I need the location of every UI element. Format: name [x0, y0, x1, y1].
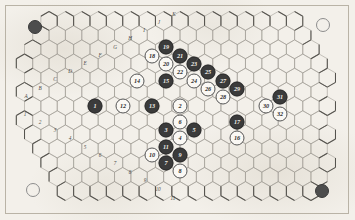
- hex-cell[interactable]: [245, 167, 261, 186]
- hex-cell[interactable]: [303, 68, 319, 87]
- game-piece-26[interactable]: 26: [201, 82, 216, 97]
- hex-cell[interactable]: [90, 125, 106, 144]
- hex-cell[interactable]: [295, 139, 311, 158]
- hex-cell[interactable]: [262, 26, 278, 45]
- hex-cell[interactable]: [286, 40, 302, 59]
- hex-cell[interactable]: [196, 167, 212, 186]
- hex-cell[interactable]: [41, 40, 57, 59]
- hex-cell[interactable]: [295, 54, 311, 73]
- hex-cell[interactable]: [205, 125, 221, 144]
- hex-cell[interactable]: [229, 26, 245, 45]
- hex-cell[interactable]: [49, 82, 65, 101]
- hex-cell[interactable]: [98, 26, 114, 45]
- hex-cell[interactable]: [196, 139, 212, 158]
- hex-cell[interactable]: [65, 111, 81, 130]
- hex-cell[interactable]: [49, 111, 65, 130]
- hex-cell[interactable]: [213, 111, 229, 130]
- hex-cell[interactable]: [65, 167, 81, 186]
- game-piece-13[interactable]: 13: [145, 99, 160, 114]
- hex-cell[interactable]: [49, 54, 65, 73]
- hex-cell[interactable]: [270, 68, 286, 87]
- hex-cell[interactable]: [57, 97, 73, 116]
- game-piece-29[interactable]: 29: [230, 82, 245, 97]
- game-piece-14[interactable]: 14: [130, 74, 145, 89]
- hex-cell[interactable]: [245, 82, 261, 101]
- game-piece-28[interactable]: 28: [216, 90, 231, 105]
- hex-cell[interactable]: [229, 54, 245, 73]
- hex-cell[interactable]: [139, 125, 155, 144]
- hex-cell[interactable]: [41, 97, 57, 116]
- hex-cell[interactable]: [286, 68, 302, 87]
- game-piece-11[interactable]: 11: [159, 140, 174, 155]
- hex-cell[interactable]: [262, 167, 278, 186]
- hex-cell[interactable]: [221, 40, 237, 59]
- hex-cell[interactable]: [278, 26, 294, 45]
- hex-cell[interactable]: [278, 167, 294, 186]
- game-piece-5[interactable]: 5: [187, 123, 202, 138]
- hex-cell[interactable]: [295, 111, 311, 130]
- hex-cell[interactable]: [57, 40, 73, 59]
- game-piece-25[interactable]: 25: [201, 65, 216, 80]
- hex-cell[interactable]: [82, 111, 98, 130]
- game-piece-10[interactable]: 10: [145, 148, 160, 163]
- hex-cell[interactable]: [82, 167, 98, 186]
- hex-cell[interactable]: [90, 68, 106, 87]
- hex-cell[interactable]: [65, 82, 81, 101]
- hex-cell[interactable]: [57, 153, 73, 172]
- hex-cell[interactable]: [115, 111, 131, 130]
- hex-cell[interactable]: [245, 111, 261, 130]
- game-piece-2[interactable]: 2: [173, 99, 188, 114]
- hex-cell[interactable]: [254, 125, 270, 144]
- game-piece-18[interactable]: 18: [145, 49, 160, 64]
- hex-cell[interactable]: [82, 26, 98, 45]
- hex-cell[interactable]: [98, 167, 114, 186]
- hex-cell[interactable]: [229, 167, 245, 186]
- game-piece-32[interactable]: 32: [273, 107, 288, 122]
- game-piece-15[interactable]: 15: [159, 74, 174, 89]
- game-piece-21[interactable]: 21: [173, 49, 188, 64]
- hex-cell[interactable]: [196, 26, 212, 45]
- hex-cell[interactable]: [115, 139, 131, 158]
- hex-cell[interactable]: [123, 40, 139, 59]
- hex-cell[interactable]: [65, 26, 81, 45]
- hex-cell[interactable]: [213, 26, 229, 45]
- game-piece-7[interactable]: 7: [159, 156, 174, 171]
- hex-cell[interactable]: [106, 125, 122, 144]
- game-piece-24[interactable]: 24: [187, 74, 202, 89]
- hex-cell[interactable]: [295, 167, 311, 186]
- hex-cell[interactable]: [270, 153, 286, 172]
- hex-cell[interactable]: [188, 97, 204, 116]
- hex-cell[interactable]: [237, 97, 253, 116]
- game-piece-9[interactable]: 9: [173, 148, 188, 163]
- hex-cell[interactable]: [74, 40, 90, 59]
- game-piece-1[interactable]: 1: [88, 99, 103, 114]
- hex-cell[interactable]: [188, 153, 204, 172]
- hex-cell[interactable]: [123, 125, 139, 144]
- hex-cell[interactable]: [180, 26, 196, 45]
- hex-cell[interactable]: [278, 139, 294, 158]
- hex-cell[interactable]: [254, 40, 270, 59]
- hex-cell[interactable]: [262, 54, 278, 73]
- game-piece-17[interactable]: 17: [230, 115, 245, 130]
- game-piece-12[interactable]: 12: [116, 99, 131, 114]
- hex-cell[interactable]: [286, 125, 302, 144]
- hex-cell[interactable]: [262, 139, 278, 158]
- game-piece-31[interactable]: 31: [273, 90, 288, 105]
- hex-cell[interactable]: [74, 68, 90, 87]
- hex-cell[interactable]: [205, 40, 221, 59]
- hex-cell[interactable]: [303, 153, 319, 172]
- hex-cell[interactable]: [286, 97, 302, 116]
- hex-cell[interactable]: [286, 153, 302, 172]
- hex-cell[interactable]: [270, 40, 286, 59]
- hex-cell[interactable]: [270, 125, 286, 144]
- game-piece-30[interactable]: 30: [259, 99, 274, 114]
- hex-cell[interactable]: [147, 167, 163, 186]
- game-piece-19[interactable]: 19: [159, 40, 174, 55]
- game-piece-16[interactable]: 16: [230, 131, 245, 146]
- game-piece-22[interactable]: 22: [173, 65, 188, 80]
- hex-cell[interactable]: [245, 26, 261, 45]
- hex-cell[interactable]: [237, 40, 253, 59]
- game-piece-6[interactable]: 6: [173, 115, 188, 130]
- game-piece-8[interactable]: 8: [173, 164, 188, 179]
- hex-cell[interactable]: [74, 125, 90, 144]
